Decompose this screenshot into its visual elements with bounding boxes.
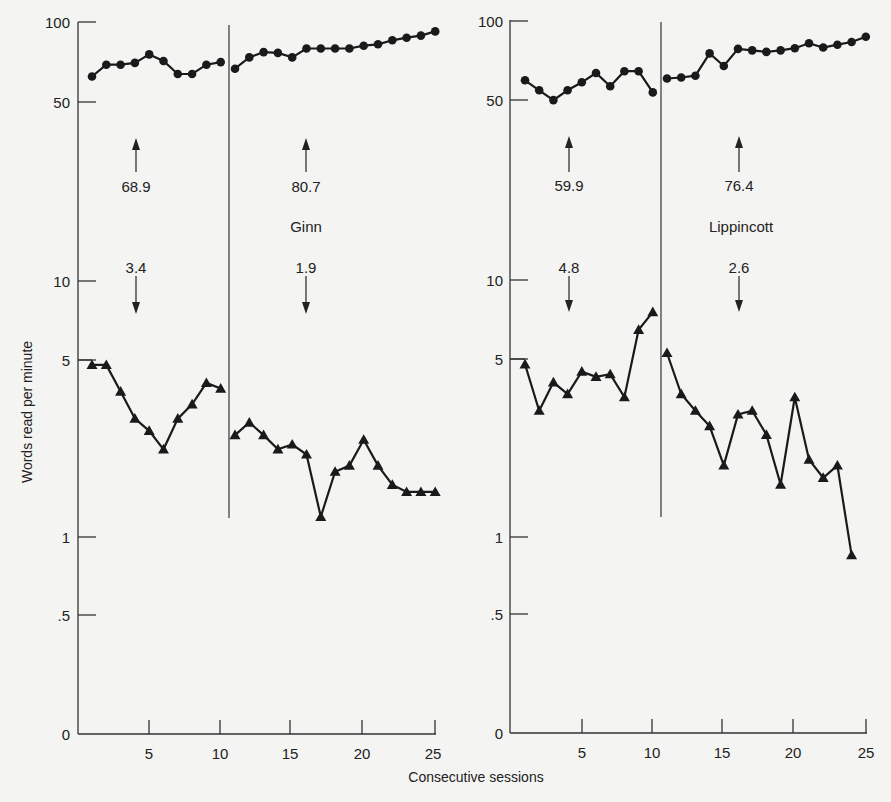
- triangle-marker: [201, 377, 212, 387]
- y-ticks: 100 50 10 5 1 .5 0: [478, 13, 528, 742]
- x-tick-label: 25: [425, 745, 442, 762]
- circle-marker: [145, 50, 154, 59]
- triangle-marker: [287, 439, 298, 449]
- y-tick-label: 10: [53, 273, 70, 290]
- series-line: [92, 54, 221, 76]
- circle-marker: [174, 70, 183, 79]
- x-tick-label: 10: [644, 744, 661, 761]
- triangle-marker: [548, 377, 559, 387]
- y-tick-label: 1: [62, 529, 70, 546]
- circle-marker: [634, 67, 643, 76]
- panel-lippincott: 100 50 10 5 1 .5 0 5 10 15 20 25 59.9: [478, 13, 874, 761]
- chart: Words read per minute Consecutive sessio…: [0, 0, 891, 802]
- panel-label-ginn: Ginn: [290, 218, 322, 235]
- triangle-marker: [676, 389, 687, 399]
- circle-marker: [606, 82, 615, 91]
- circle-marker: [345, 44, 354, 53]
- circle-marker: [417, 31, 426, 40]
- triangle-marker: [846, 550, 857, 560]
- panel-ginn: 100 50 10 5 1 .5 0 5 10 15 20 25 68.: [45, 14, 441, 762]
- triangle-marker: [619, 392, 630, 402]
- circle-marker: [549, 96, 558, 105]
- circle-marker: [620, 67, 629, 76]
- x-ticks: 5 10 15 20 25: [578, 719, 875, 761]
- circle-marker: [663, 74, 672, 83]
- phase2-correct-mean: 80.7: [291, 178, 320, 195]
- x-axis-title: Consecutive sessions: [408, 769, 543, 785]
- series-line: [525, 71, 653, 100]
- phase1-correct-mean: 68.9: [121, 178, 150, 195]
- circle-marker: [274, 49, 283, 58]
- circle-marker: [705, 49, 714, 58]
- series-group: [510, 32, 870, 559]
- x-tick-label: 15: [714, 744, 731, 761]
- y-tick-label: 5: [62, 352, 70, 369]
- circle-marker: [805, 39, 814, 48]
- triangle-marker: [534, 405, 545, 415]
- circle-marker: [578, 78, 587, 87]
- circle-marker: [535, 86, 544, 95]
- x-tick-label: 5: [578, 744, 586, 761]
- y-tick-label: 0: [495, 725, 503, 742]
- circle-marker: [245, 53, 254, 62]
- down-arrow-icon: [302, 276, 310, 314]
- triangle-marker: [344, 460, 355, 470]
- x-tick-label: 25: [858, 744, 875, 761]
- circle-marker: [131, 59, 140, 68]
- x-tick-label: 15: [282, 745, 299, 762]
- circle-marker: [691, 71, 700, 80]
- phase1-correct-mean: 59.9: [554, 177, 583, 194]
- y-tick-label: 100: [478, 13, 503, 30]
- circle-marker: [819, 43, 828, 52]
- triangle-marker: [789, 392, 800, 402]
- circle-marker: [374, 40, 383, 49]
- y-tick-label: 1: [495, 529, 503, 546]
- circle-marker: [317, 44, 326, 53]
- triangle-marker: [576, 366, 587, 376]
- triangle-marker: [662, 348, 673, 358]
- circle-marker: [116, 60, 125, 69]
- circle-marker: [563, 86, 572, 95]
- circle-marker: [776, 46, 785, 55]
- triangle-marker: [761, 429, 772, 439]
- y-tick-label: .5: [490, 606, 503, 623]
- triangle-marker: [520, 359, 531, 369]
- up-arrow-icon: [302, 138, 310, 172]
- phase2-error-mean: 1.9: [296, 259, 317, 276]
- triangle-marker: [129, 413, 140, 423]
- circle-marker: [431, 27, 440, 36]
- circle-marker: [388, 36, 397, 45]
- circle-marker: [833, 40, 842, 49]
- x-tick-label: 5: [145, 745, 153, 762]
- circle-marker: [88, 72, 97, 81]
- triangle-marker: [804, 454, 815, 464]
- phase1-error-mean: 4.8: [559, 259, 580, 276]
- y-tick-label: .5: [57, 607, 70, 624]
- circle-marker: [677, 73, 686, 82]
- y-tick-label: 5: [495, 351, 503, 368]
- circle-marker: [202, 60, 211, 69]
- circle-marker: [521, 76, 530, 85]
- circle-marker: [762, 48, 771, 57]
- circle-marker: [720, 62, 729, 71]
- circle-marker: [216, 58, 225, 67]
- series-line: [667, 353, 852, 555]
- up-arrow-icon: [565, 136, 573, 172]
- circle-marker: [231, 64, 240, 73]
- phase2-error-mean: 2.6: [729, 259, 750, 276]
- y-ticks: 100 50 10 5 1 .5 0: [45, 14, 96, 743]
- circle-marker: [359, 41, 368, 50]
- x-tick-label: 20: [354, 745, 371, 762]
- y-axis-title: Words read per minute: [19, 341, 35, 483]
- up-arrow-icon: [132, 138, 140, 172]
- down-arrow-icon: [132, 276, 140, 314]
- x-tick-label: 20: [785, 744, 802, 761]
- circle-marker: [847, 38, 856, 47]
- triangle-marker: [647, 307, 658, 317]
- triangle-marker: [747, 405, 758, 415]
- triangle-marker: [832, 460, 843, 470]
- triangle-marker: [358, 434, 369, 444]
- phase1-error-mean: 3.4: [126, 259, 147, 276]
- series-line: [92, 365, 221, 449]
- y-tick-label: 100: [45, 14, 70, 31]
